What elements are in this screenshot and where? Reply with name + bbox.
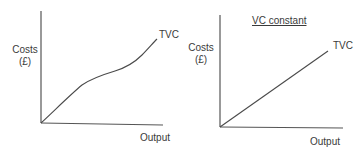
left-y-label: Costs (£)	[10, 44, 40, 68]
left-tvc-curve	[41, 39, 157, 123]
left-x-label: Output	[140, 132, 170, 144]
left-x-axis	[41, 123, 163, 125]
right-y-label: Costs (£)	[186, 42, 216, 66]
left-curve-label: TVC	[159, 29, 179, 41]
right-chart	[220, 15, 343, 128]
right-y-label-line1: Costs	[186, 42, 216, 54]
left-y-label-line2: (£)	[10, 56, 40, 68]
right-curve-label: TVC	[333, 40, 353, 52]
right-chart-title: VC constant	[252, 15, 306, 27]
right-x-label: Output	[310, 136, 340, 148]
left-chart	[41, 11, 163, 125]
right-tvc-line	[220, 51, 328, 127]
left-y-label-line1: Costs	[10, 44, 40, 56]
right-y-label-line2: (£)	[186, 54, 216, 66]
right-x-axis	[220, 127, 343, 128]
diagram-canvas	[0, 0, 362, 155]
